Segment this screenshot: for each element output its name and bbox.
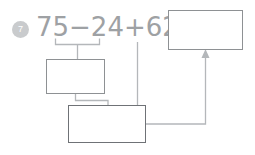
partial-result-box[interactable] [46, 59, 105, 94]
problem-number-badge: 7 [12, 21, 29, 38]
partial-result-box-value [47, 60, 104, 93]
bottom-box-to-answer-box-connector [146, 49, 210, 124]
middle-box-to-bottom-box-connector [76, 94, 109, 105]
answer-box-value [169, 11, 242, 49]
intermediate-sum-box-value [69, 106, 145, 142]
worksheet-problem-canvas: 7 75−24+62= [0, 0, 255, 155]
arrow-head-icon [202, 49, 210, 58]
answer-box[interactable] [168, 10, 243, 50]
intermediate-sum-box[interactable] [68, 105, 146, 143]
